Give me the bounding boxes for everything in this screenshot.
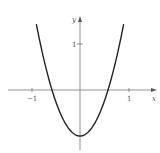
x-tick-label-neg1: −1 bbox=[27, 95, 37, 103]
y-tick-label-1: 1 bbox=[72, 41, 76, 49]
x-axis-arrow-icon bbox=[151, 88, 157, 92]
plot-canvas: −1 1 1 x y bbox=[0, 0, 160, 153]
x-tick-label-1: 1 bbox=[127, 95, 131, 103]
x-axis-label: x bbox=[152, 95, 156, 103]
y-axis-label: y bbox=[71, 16, 77, 24]
y-axis-arrow-icon bbox=[78, 16, 82, 22]
